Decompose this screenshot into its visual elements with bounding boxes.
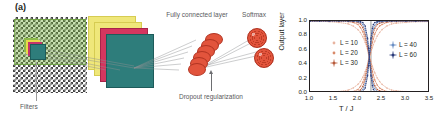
neuron xyxy=(188,63,206,76)
data-point xyxy=(338,22,340,24)
legend-marker-dot xyxy=(330,49,338,57)
data-point xyxy=(374,22,376,24)
data-point xyxy=(338,21,340,22)
data-point xyxy=(368,48,370,50)
legend-marker-plus xyxy=(389,41,397,49)
data-point xyxy=(362,81,364,83)
data-point xyxy=(379,90,381,92)
data-point xyxy=(368,65,370,67)
x-tick-label: 2.5 xyxy=(372,94,390,101)
data-point xyxy=(372,42,374,44)
data-point xyxy=(360,21,362,22)
data-point xyxy=(362,31,364,33)
data-point xyxy=(373,74,375,76)
y-tick-label: 0.4 xyxy=(298,59,307,66)
data-point xyxy=(374,33,376,35)
data-point xyxy=(396,90,398,92)
data-point xyxy=(362,24,364,26)
data-point xyxy=(379,81,381,83)
data-point xyxy=(357,24,359,26)
data-point xyxy=(381,24,383,26)
data-point xyxy=(376,77,378,79)
data-point xyxy=(396,22,398,24)
data-point xyxy=(362,86,364,88)
data-point xyxy=(364,25,366,27)
data-point xyxy=(376,84,378,86)
data-point xyxy=(405,91,407,92)
x-tick-label: 1.5 xyxy=(324,94,342,101)
x-tick-label: 2.0 xyxy=(348,94,366,101)
data-point xyxy=(374,25,376,27)
dropout-arrow-icon xyxy=(211,74,212,91)
data-point xyxy=(376,35,378,37)
data-point xyxy=(348,89,350,91)
data-point xyxy=(357,84,359,86)
data-point xyxy=(373,68,375,70)
data-point xyxy=(376,28,378,30)
x-tick-label: 3.0 xyxy=(396,94,414,101)
data-point xyxy=(348,23,350,25)
data-point xyxy=(374,40,376,42)
y-tick-label: 0.6 xyxy=(298,45,307,52)
panel-b-output-layer-plot: (b) 0.00.20.40.60.81.0 1.01.52.02.53.03.… xyxy=(275,0,441,123)
y-axis-label: Output layer xyxy=(278,2,285,62)
data-point xyxy=(362,27,364,29)
data-point xyxy=(405,22,407,24)
data-point xyxy=(338,91,340,92)
dropout-caption: Dropout regularization xyxy=(176,93,246,102)
data-point xyxy=(310,21,311,22)
data-point xyxy=(370,38,372,40)
data-point xyxy=(381,89,383,91)
data-point xyxy=(367,75,369,77)
data-point xyxy=(362,36,364,38)
legend-label: L = 40 xyxy=(399,41,417,48)
y-tick-label: 1.0 xyxy=(298,16,307,23)
data-point xyxy=(373,38,375,40)
legend-label: L = 20 xyxy=(340,49,358,56)
softmax-unit xyxy=(247,28,267,48)
data-point xyxy=(360,32,362,34)
legend-label: L = 60 xyxy=(399,51,417,58)
data-point xyxy=(372,85,374,87)
data-point xyxy=(376,89,378,91)
legend-label: L = 10 xyxy=(340,39,358,46)
x-axis-ticks: 1.01.52.02.53.03.5 xyxy=(295,94,441,106)
softmax-caption: Softmax xyxy=(230,11,278,18)
data-point xyxy=(391,89,393,91)
data-point xyxy=(367,38,369,40)
data-point xyxy=(369,65,371,67)
legend-label: L = 30 xyxy=(340,59,358,66)
data-point xyxy=(352,87,354,89)
y-axis-ticks: 0.00.20.40.60.81.0 xyxy=(283,14,307,98)
data-point xyxy=(381,84,383,86)
data-point xyxy=(352,25,354,27)
data-point xyxy=(364,87,366,89)
data-point xyxy=(357,89,359,91)
data-point xyxy=(362,22,364,24)
data-point xyxy=(370,75,372,77)
data-point xyxy=(405,21,407,22)
data-point xyxy=(379,25,381,27)
data-point xyxy=(379,32,381,34)
data-point xyxy=(376,24,378,26)
data-point xyxy=(373,89,375,91)
data-point xyxy=(379,87,381,89)
data-point xyxy=(373,44,375,46)
data-point xyxy=(357,29,359,31)
data-point xyxy=(386,25,388,27)
data-point xyxy=(391,23,393,25)
network-connections xyxy=(0,0,275,123)
data-point xyxy=(372,71,374,73)
data-point xyxy=(373,24,375,26)
legend-marker-plus xyxy=(330,59,338,67)
data-point xyxy=(369,48,371,50)
x-axis-label: T / J xyxy=(339,104,353,113)
data-point xyxy=(372,27,374,29)
data-point xyxy=(374,79,376,81)
legend-marker-plus xyxy=(389,51,397,59)
figure-container: (a) Filters xyxy=(0,0,441,123)
data-point xyxy=(381,29,383,31)
legend-marker-dot xyxy=(330,39,338,47)
data-point xyxy=(319,21,321,22)
fully-connected-caption: Fully connected layer xyxy=(163,11,231,20)
